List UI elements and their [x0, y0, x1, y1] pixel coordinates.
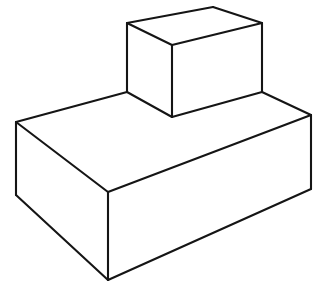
isometric-stacked-boxes-drawing: [0, 0, 326, 290]
figure-canvas: [0, 0, 326, 290]
